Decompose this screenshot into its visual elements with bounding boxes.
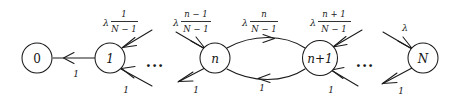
fraction-denominator-u2: N − 1 [182, 24, 208, 34]
lambda-symbol-u3: λ [241, 17, 248, 28]
edge-n-plus-1-to-n [227, 69, 305, 83]
edge-down-into-node-n-plus-1 [331, 68, 358, 87]
weight-label-d2: 1 [123, 85, 129, 95]
ellipsis-right: ... [356, 53, 375, 71]
rate-label-u1: λ 1 N − 1 [102, 9, 138, 34]
fraction-numerator-u4: n + 1 [322, 9, 345, 19]
edge-up-into-node-N [383, 32, 413, 49]
node-n-plus-1[interactable]: n+1 [303, 41, 338, 76]
weight-label-d6: 1 [398, 86, 404, 96]
rate-label-u4: λ n + 1 N − 1 [309, 9, 351, 34]
node-N-label: N [417, 52, 429, 66]
weight-label-d4: 1 [259, 83, 265, 93]
node-1-label: 1 [106, 52, 114, 66]
weight-label-d1: 1 [73, 69, 79, 79]
markov-chain-diagram: 0 1 n n+1 N ... ... λ 1 N − 1 [0, 0, 458, 99]
rate-label-u2: λ n − 1 N − 1 [172, 9, 211, 34]
fraction-numerator-u2: n − 1 [184, 9, 207, 19]
lambda-symbol-u4: λ [309, 17, 316, 28]
rate-label-u3: λ n N − 1 [241, 9, 278, 34]
fraction-denominator-u4: N − 1 [320, 24, 346, 34]
weight-label-d3: 1 [193, 85, 199, 95]
node-n-plus-1-label: n+1 [307, 52, 332, 66]
node-0-label: 0 [33, 52, 41, 66]
edge-up-into-node-n [176, 32, 206, 49]
edge-down-out-of-node-n [178, 68, 205, 82]
fraction-numerator-u3: n [261, 9, 266, 19]
edge-1-to-0 [53, 53, 95, 64]
ellipsis-left: ... [146, 53, 165, 71]
node-1[interactable]: 1 [95, 43, 125, 73]
lambda-symbol-u5: λ [401, 22, 408, 33]
fraction-numerator-u1: 1 [121, 9, 126, 19]
fraction-denominator-u1: N − 1 [110, 24, 136, 34]
node-0[interactable]: 0 [22, 43, 52, 73]
node-N[interactable]: N [408, 43, 438, 73]
node-n-label: n [211, 52, 219, 66]
lambda-symbol-u1: λ [102, 17, 109, 28]
fraction-denominator-u3: N − 1 [250, 24, 276, 34]
edge-down-out-of-node-N [382, 68, 412, 84]
edge-n-to-n-plus-1 [227, 35, 305, 49]
node-n[interactable]: n [200, 43, 230, 73]
weight-label-d5: 1 [328, 85, 334, 95]
lambda-symbol-u2: λ [172, 17, 179, 28]
